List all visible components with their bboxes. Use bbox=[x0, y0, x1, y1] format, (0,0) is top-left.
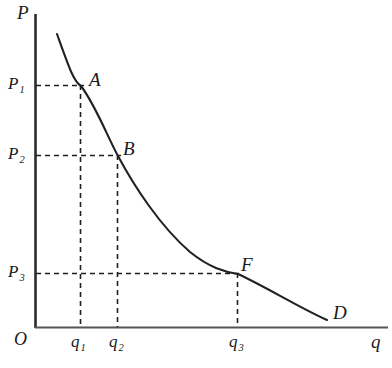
y-tick-base-p3: P bbox=[8, 262, 18, 281]
x-tick-base-q1: q bbox=[71, 332, 80, 351]
curve-label-d: D bbox=[333, 303, 347, 322]
x-tick-sub-q1: 1 bbox=[81, 342, 86, 353]
y-tick-sub-p3: 3 bbox=[19, 272, 24, 283]
y-tick-sub-p1: 1 bbox=[19, 84, 24, 95]
x-axis-label: q bbox=[371, 332, 381, 351]
x-tick-base-q2: q bbox=[109, 332, 118, 351]
y-tick-base-p2: P bbox=[8, 144, 18, 163]
y-tick-label-p1: P1 bbox=[8, 75, 24, 92]
y-tick-sub-p2: 2 bbox=[19, 154, 24, 165]
y-tick-base-p1: P bbox=[8, 74, 18, 93]
y-axis-label: P bbox=[17, 3, 29, 22]
point-label-b: B bbox=[123, 139, 135, 158]
point-label-f: F bbox=[241, 255, 253, 274]
x-tick-label-q3: q3 bbox=[229, 333, 243, 350]
x-tick-sub-q3: 3 bbox=[239, 342, 244, 353]
x-tick-label-q2: q2 bbox=[109, 333, 123, 350]
y-tick-label-p2: P2 bbox=[8, 145, 24, 162]
origin-label: O bbox=[14, 330, 27, 348]
x-tick-base-q3: q bbox=[229, 332, 238, 351]
x-tick-sub-q2: 2 bbox=[119, 342, 124, 353]
x-tick-label-q1: q1 bbox=[71, 333, 85, 350]
point-label-a: A bbox=[89, 70, 101, 89]
demand-curve-figure: P q O P1 P2 P3 q1 q2 q3 A B F D bbox=[0, 0, 392, 368]
y-tick-label-p3: P3 bbox=[8, 263, 24, 280]
